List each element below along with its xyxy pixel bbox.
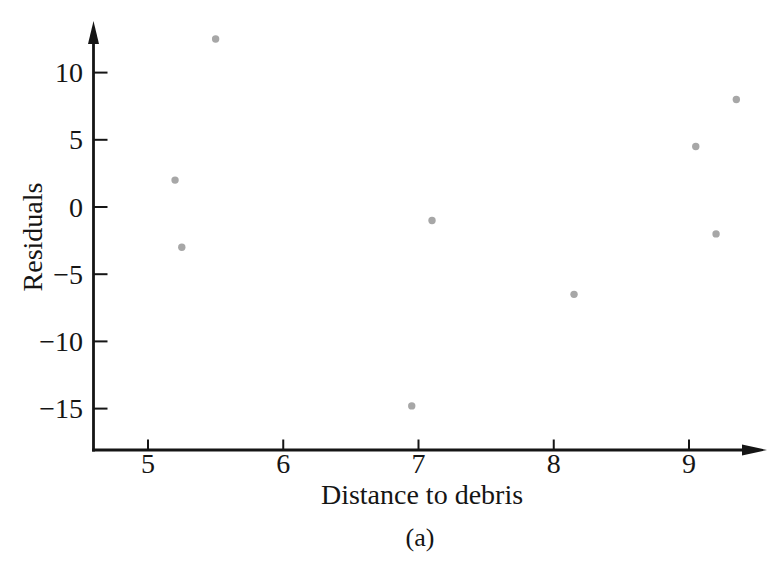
data-point — [733, 96, 740, 103]
x-tick-label: 6 — [276, 448, 290, 479]
y-axis-title: Residuals — [17, 183, 48, 292]
y-tick-label: −10 — [39, 326, 83, 357]
x-axis-arrow-icon — [742, 445, 767, 456]
data-point — [428, 217, 435, 224]
y-tick-label: −5 — [53, 259, 83, 290]
x-axis-title: Distance to debris — [321, 479, 523, 510]
residual-plot-figure: 567891050−5−10−15 Residuals Distance to … — [0, 0, 779, 588]
x-tick-label: 9 — [682, 448, 696, 479]
y-axis-arrow-icon — [88, 21, 99, 44]
data-point — [570, 291, 577, 298]
data-point — [712, 230, 719, 237]
axes: 567891050−5−10−15 — [39, 21, 767, 479]
data-point — [408, 402, 415, 409]
x-tick-label: 7 — [412, 448, 426, 479]
data-point — [178, 244, 185, 251]
y-tick-label: 5 — [69, 124, 83, 155]
figure-caption: (a) — [406, 523, 435, 552]
x-tick-label: 5 — [141, 448, 155, 479]
y-tick-label: 0 — [69, 192, 83, 223]
y-tick-label: −15 — [39, 393, 83, 424]
y-tick-label: 10 — [55, 57, 83, 88]
data-point — [212, 35, 219, 42]
x-tick-label: 8 — [547, 448, 561, 479]
scatter-plot: 567891050−5−10−15 Residuals Distance to … — [0, 0, 779, 588]
data-point — [692, 143, 699, 150]
data-point — [171, 176, 178, 183]
data-points — [171, 35, 740, 409]
